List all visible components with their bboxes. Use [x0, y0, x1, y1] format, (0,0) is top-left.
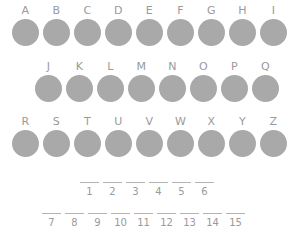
answer-blank-row-upper: 1 2 3 4 5 6	[78, 182, 216, 198]
blank-line	[134, 213, 153, 214]
answer-circle[interactable]	[136, 19, 163, 46]
letter-slot[interactable]: D	[103, 4, 134, 46]
slot-letter-label: I	[272, 4, 276, 17]
answer-circle[interactable]	[252, 75, 279, 102]
answer-circle[interactable]	[190, 75, 217, 102]
blank-line	[195, 182, 214, 183]
letter-slot[interactable]: I	[258, 4, 289, 46]
blank-number-label: 15	[229, 217, 242, 229]
blank-line	[88, 213, 107, 214]
letter-slot[interactable]: C	[72, 4, 103, 46]
answer-circle[interactable]	[66, 75, 93, 102]
slot-letter-label: V	[146, 115, 154, 128]
letter-slot[interactable]: A	[10, 4, 41, 46]
letter-row-a: A B C D E F G H	[10, 4, 289, 46]
blank-number-label: 5	[178, 186, 184, 198]
blank-number-label: 11	[137, 217, 150, 229]
answer-blank[interactable]: 13	[178, 213, 201, 229]
answer-circle[interactable]	[105, 19, 132, 46]
answer-circle[interactable]	[43, 130, 70, 157]
letter-slot[interactable]: W	[165, 115, 196, 157]
letter-slot[interactable]: B	[41, 4, 72, 46]
letter-slot[interactable]: J	[33, 60, 64, 102]
blank-line	[42, 213, 61, 214]
answer-circle[interactable]	[35, 75, 62, 102]
letter-slot[interactable]: P	[219, 60, 250, 102]
blank-number-label: 4	[155, 186, 161, 198]
letter-slot[interactable]: X	[196, 115, 227, 157]
letter-slot[interactable]: Y	[227, 115, 258, 157]
letter-slot[interactable]: L	[95, 60, 126, 102]
letter-slot[interactable]: Z	[258, 115, 289, 157]
slot-letter-label: J	[47, 60, 51, 73]
answer-blank[interactable]: 7	[40, 213, 63, 229]
answer-circle[interactable]	[260, 130, 287, 157]
blank-number-label: 3	[132, 186, 138, 198]
letter-slot[interactable]: S	[41, 115, 72, 157]
letter-slot[interactable]: H	[227, 4, 258, 46]
letter-slot[interactable]: U	[103, 115, 134, 157]
letter-slot[interactable]: M	[126, 60, 157, 102]
answer-circle[interactable]	[221, 75, 248, 102]
answer-blank[interactable]: 5	[170, 182, 193, 198]
slot-letter-label: T	[84, 115, 91, 128]
answer-circle[interactable]	[105, 130, 132, 157]
answer-circle[interactable]	[198, 19, 225, 46]
blank-line	[80, 182, 99, 183]
answer-blank[interactable]: 11	[132, 213, 155, 229]
blank-number-label: 12	[160, 217, 173, 229]
puzzle-sheet: A B C D E F G H	[0, 0, 298, 241]
answer-blank[interactable]: 10	[109, 213, 132, 229]
blank-line	[103, 182, 122, 183]
answer-blank[interactable]: 3	[124, 182, 147, 198]
answer-circle[interactable]	[43, 19, 70, 46]
blank-line	[226, 213, 245, 214]
answer-circle[interactable]	[74, 19, 101, 46]
blank-number-label: 8	[71, 217, 77, 229]
blank-line	[157, 213, 176, 214]
answer-blank[interactable]: 8	[63, 213, 86, 229]
answer-blank[interactable]: 14	[201, 213, 224, 229]
answer-blank[interactable]: 2	[101, 182, 124, 198]
answer-circle[interactable]	[128, 75, 155, 102]
slot-letter-label: P	[231, 60, 238, 73]
answer-blank[interactable]: 9	[86, 213, 109, 229]
slot-letter-label: Q	[261, 60, 270, 73]
letter-slot[interactable]: E	[134, 4, 165, 46]
answer-circle[interactable]	[229, 19, 256, 46]
letter-slot[interactable]: T	[72, 115, 103, 157]
answer-blank[interactable]: 4	[147, 182, 170, 198]
answer-circle[interactable]	[74, 130, 101, 157]
answer-circle[interactable]	[167, 130, 194, 157]
letter-slot[interactable]: V	[134, 115, 165, 157]
slot-letter-label: G	[207, 4, 216, 17]
letter-slot[interactable]: F	[165, 4, 196, 46]
slot-letter-label: W	[175, 115, 186, 128]
slot-letter-label: L	[107, 60, 113, 73]
letter-slot[interactable]: Q	[250, 60, 281, 102]
letter-slot[interactable]: K	[64, 60, 95, 102]
blank-number-label: 9	[94, 217, 100, 229]
answer-circle[interactable]	[198, 130, 225, 157]
answer-circle[interactable]	[159, 75, 186, 102]
answer-circle[interactable]	[136, 130, 163, 157]
letter-slot[interactable]: G	[196, 4, 227, 46]
blank-number-label: 1	[86, 186, 92, 198]
answer-circle[interactable]	[260, 19, 287, 46]
answer-circle[interactable]	[12, 130, 39, 157]
slot-letter-label: F	[177, 4, 184, 17]
answer-circle[interactable]	[167, 19, 194, 46]
slot-letter-label: U	[114, 115, 122, 128]
answer-circle[interactable]	[229, 130, 256, 157]
answer-blank[interactable]: 6	[193, 182, 216, 198]
letter-slot[interactable]: R	[10, 115, 41, 157]
answer-circle[interactable]	[97, 75, 124, 102]
answer-circle[interactable]	[12, 19, 39, 46]
slot-letter-label: B	[53, 4, 61, 17]
letter-slot[interactable]: N	[157, 60, 188, 102]
answer-blank[interactable]: 1	[78, 182, 101, 198]
answer-blank[interactable]: 15	[224, 213, 247, 229]
letter-slot[interactable]: O	[188, 60, 219, 102]
blank-line	[65, 213, 84, 214]
answer-blank[interactable]: 12	[155, 213, 178, 229]
